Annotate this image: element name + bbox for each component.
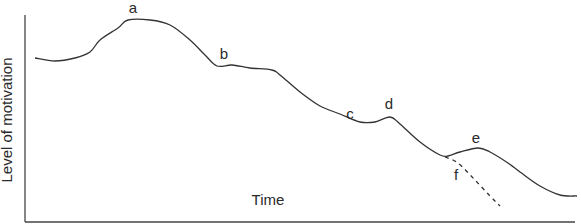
annotation-d: d — [385, 95, 393, 112]
y-axis-label: Level of motivation — [0, 57, 15, 182]
annotation-f: f — [454, 166, 459, 183]
motivation-curve — [35, 19, 577, 196]
x-axis-label: Time — [252, 191, 285, 208]
annotation-a: a — [129, 0, 138, 16]
annotation-e: e — [472, 129, 480, 146]
motivation-chart: Level of motivation Time a b c d e f — [0, 0, 581, 224]
annotation-c: c — [346, 105, 354, 122]
annotation-b: b — [220, 45, 228, 62]
